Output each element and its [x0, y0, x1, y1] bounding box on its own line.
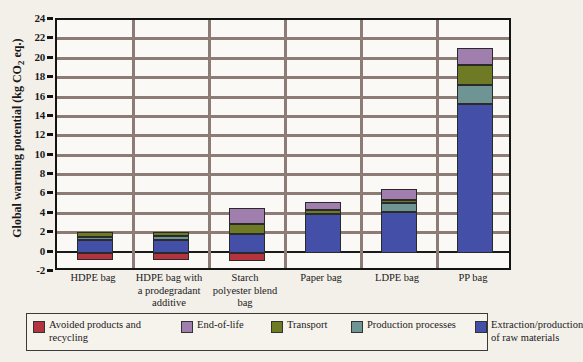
x-axis-label-line: HDPE bag with — [131, 272, 207, 285]
legend-label-line: End-of-life — [197, 319, 244, 332]
bar-segment — [457, 85, 493, 104]
y-tick-label: 16 — [34, 91, 45, 101]
x-axis-label: HDPE bag witha prodegradantadditive — [131, 272, 207, 310]
legend-label: Production processes — [367, 319, 456, 332]
y-tick-mark — [47, 75, 53, 78]
legend-row: Avoided products andrecyclingEnd-of-life… — [33, 319, 481, 334]
bar-group — [229, 20, 265, 268]
y-tick-label: 18 — [34, 71, 45, 81]
legend-item[interactable]: Extraction/productionof raw materials — [475, 319, 583, 344]
legend-label-line: Transport — [287, 319, 327, 332]
bar-segment — [77, 237, 113, 240]
bar-segment-negative — [229, 253, 265, 262]
bar-segment-negative — [153, 253, 189, 261]
bar-segment — [229, 234, 265, 252]
y-tick-mark — [47, 191, 53, 194]
legend-color-swatch — [271, 321, 283, 333]
bar-group — [77, 20, 113, 268]
x-axis-label-line: polyester blend — [207, 285, 283, 298]
bar-group — [381, 20, 417, 268]
y-tick-mark — [47, 133, 53, 136]
y-tick-label: 2 — [40, 226, 45, 236]
bar-segment — [229, 224, 265, 235]
legend-item[interactable]: Avoided products andrecycling — [33, 319, 141, 344]
category-separator — [132, 20, 135, 268]
legend-color-swatch — [351, 321, 363, 333]
bar-segment — [381, 203, 417, 212]
legend-label-line: Production processes — [367, 319, 456, 332]
bar-segment — [457, 65, 493, 85]
plot-inner — [57, 20, 509, 268]
bar-segment — [305, 210, 341, 214]
x-axis-label-line: Starch — [207, 272, 283, 285]
y-tick-label: 20 — [34, 52, 45, 62]
chart-legend: Avoided products andrecyclingEnd-of-life… — [26, 313, 488, 351]
category-separator — [360, 20, 363, 268]
y-tick-label: 6 — [40, 187, 45, 197]
legend-label-line: Avoided products and — [49, 319, 141, 332]
bar-segment — [381, 200, 417, 203]
bar-segment — [77, 232, 113, 236]
legend-label-line: recycling — [49, 332, 141, 345]
y-tick-mark — [47, 36, 53, 39]
bar-segment — [381, 212, 417, 253]
plot-area — [55, 18, 511, 270]
x-axis-label: PP bag — [435, 272, 511, 285]
y-tick-label: 4 — [40, 207, 45, 217]
x-axis-label-line: HDPE bag — [55, 272, 131, 285]
legend-label: End-of-life — [197, 319, 244, 332]
y-tick-mark — [47, 172, 53, 175]
y-axis-tick-labels: 242220181614121086420-2 — [0, 0, 55, 362]
y-tick-label: 8 — [40, 168, 45, 178]
bar-segment — [457, 104, 493, 252]
y-tick-mark — [47, 250, 53, 253]
y-tick-label: 24 — [34, 13, 45, 23]
y-tick-label: 22 — [34, 32, 45, 42]
legend-label: Extraction/productionof raw materials — [491, 319, 583, 344]
category-separator — [208, 20, 211, 268]
y-tick-mark — [47, 56, 53, 59]
y-tick-mark — [47, 153, 53, 156]
x-axis-label-line: LDPE bag — [359, 272, 435, 285]
x-axis-label-line: Paper bag — [283, 272, 359, 285]
y-tick-mark — [47, 95, 53, 98]
legend-color-swatch — [475, 321, 487, 333]
legend-label-line: of raw materials — [491, 332, 583, 345]
bar-segment — [153, 240, 189, 253]
bar-segment — [457, 48, 493, 64]
legend-label: Transport — [287, 319, 327, 332]
y-tick-mark — [47, 230, 53, 233]
legend-label-line: Extraction/production — [491, 319, 583, 332]
legend-item[interactable]: End-of-life — [181, 319, 244, 333]
legend-color-swatch — [181, 321, 193, 333]
bar-segment — [381, 189, 417, 201]
y-tick-mark — [47, 17, 53, 20]
bar-segment — [305, 202, 341, 210]
legend-label: Avoided products andrecycling — [49, 319, 141, 344]
x-axis-label-line: PP bag — [435, 272, 511, 285]
bar-group — [457, 20, 493, 268]
y-tick-label: 0 — [40, 246, 45, 256]
bar-segment — [153, 232, 189, 236]
x-axis-label: Paper bag — [283, 272, 359, 285]
y-tick-label: 10 — [34, 149, 45, 159]
legend-item[interactable]: Production processes — [351, 319, 456, 333]
y-tick-label: 14 — [34, 110, 45, 120]
y-tick-mark — [47, 269, 53, 272]
x-axis-label-line: a prodegradant — [131, 285, 207, 298]
bar-segment — [305, 214, 341, 253]
bar-segment — [229, 208, 265, 224]
y-tick-mark — [47, 211, 53, 214]
x-axis-label: Starchpolyester blendbag — [207, 272, 283, 310]
bar-segment — [153, 236, 189, 239]
x-axis-label-line: bag — [207, 297, 283, 310]
bar-group — [153, 20, 189, 268]
legend-item[interactable]: Transport — [271, 319, 327, 333]
category-separator — [436, 20, 439, 268]
x-axis-label-line: additive — [131, 297, 207, 310]
bar-segment-negative — [77, 253, 113, 261]
category-separator — [284, 20, 287, 268]
x-axis-label: LDPE bag — [359, 272, 435, 285]
y-tick-label: 12 — [34, 129, 45, 139]
